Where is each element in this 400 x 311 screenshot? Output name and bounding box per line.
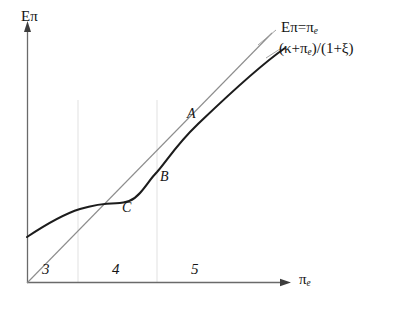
figure-container: Eπ πe 3 4 5 A B C Eπ=πe (κ+πe)/(1+ξ) [0,0,400,311]
point-label-a: A [187,107,196,121]
axis-label-x-base: π [299,271,307,287]
axis-label-x-subscript: e [307,278,311,288]
gridlines [78,100,157,283]
annotation-identity-subscript: e [314,26,318,36]
x-tick-label-5: 5 [191,262,199,277]
axis-label-y: Eπ [21,9,38,24]
x-tick-label-4: 4 [112,262,120,277]
y-axis [24,21,31,283]
point-label-b: B [160,170,169,184]
x-axis [27,279,291,286]
identity-label-leader [258,30,276,45]
annotation-identity-base: Eπ=π [281,19,314,35]
annotation-expectation-suffix: )/(1+ξ) [312,40,354,56]
identity-line [27,33,272,283]
expectation-curve [27,48,285,237]
point-label-c: C [122,201,131,215]
annotation-identity-equation: Eπ=πe [281,20,318,36]
annotation-expectation-prefix: (κ+π [279,40,308,56]
axis-label-x: πe [299,272,311,288]
x-axis-arrowhead [280,279,291,286]
annotation-expectation-equation: (κ+πe)/(1+ξ) [279,41,354,57]
x-tick-label-3: 3 [42,262,50,277]
